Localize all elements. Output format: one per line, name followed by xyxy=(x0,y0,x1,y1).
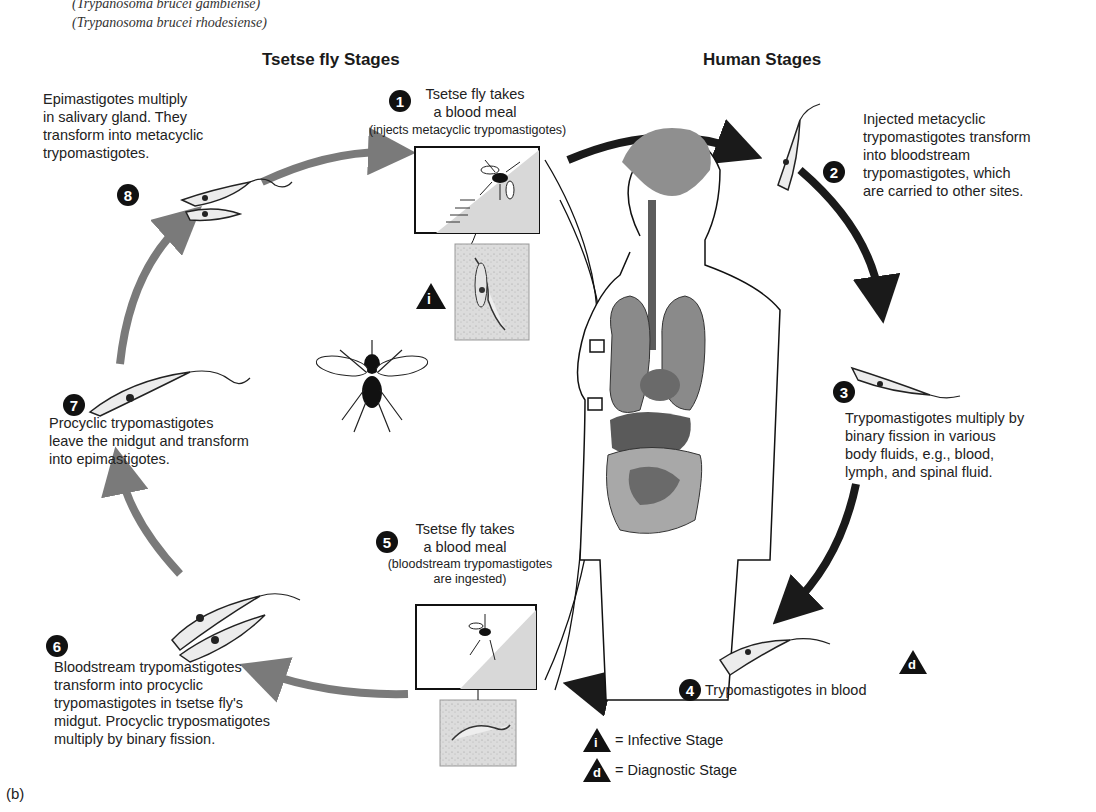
stage-8-description: Epimastigotes multiply in salivary gland… xyxy=(43,90,203,162)
stage5-bite-inset xyxy=(416,605,536,689)
infective-marker-letter: i xyxy=(427,291,431,307)
diagnostic-legend-letter: d xyxy=(593,765,601,780)
stage-6-line: midgut. Procyclic tryposmatigotes xyxy=(54,712,270,730)
stage-4-description: Trypomastigotes in blood xyxy=(705,681,866,699)
epimastigote-8 xyxy=(182,182,250,206)
stage-4-number-badge: 4 xyxy=(679,679,701,701)
legend-infective-row: i = Infective Stage xyxy=(583,728,737,752)
legend: i = Infective Stage d = Diagnostic Stage xyxy=(583,728,737,782)
diagnostic-marker-letter: d xyxy=(908,657,916,672)
stage-6-number-badge: 6 xyxy=(46,635,68,657)
stage-8-number-badge: 8 xyxy=(117,184,139,206)
stage-2-line: are carried to other sites. xyxy=(863,182,1031,200)
stage1-bite-inset xyxy=(415,147,539,233)
stage-2-line: trypomastigotes transform xyxy=(863,128,1031,146)
stage-5-note: (bloodstream trypomastigotes are ingeste… xyxy=(370,557,570,587)
stage-1-title-line: a blood meal xyxy=(415,103,535,121)
stage-5-title-line: a blood meal xyxy=(405,538,525,556)
stage-8-line: in salivary gland. They xyxy=(43,108,203,126)
stage-7-line: leave the midgut and transform xyxy=(49,432,249,450)
stage-6-line: transform into procyclic xyxy=(54,676,270,694)
stage-8-line: trypomastigotes. xyxy=(43,144,203,162)
stage-1-note: (injects metacyclic trypomastigotes) xyxy=(369,123,566,138)
diagnostic-legend-icon: d xyxy=(583,758,611,782)
trypomastigote-2 xyxy=(778,120,800,190)
stage-2-line: trypomastigotes, which xyxy=(863,164,1031,182)
stage-7-description: Procyclic trypomastigotes leave the midg… xyxy=(49,414,249,468)
human-body-figure xyxy=(578,128,781,700)
stage-2-line: Injected metacyclic xyxy=(863,110,1031,128)
diagnostic-legend-label: = Diagnostic Stage xyxy=(615,762,737,778)
infective-legend-icon: i xyxy=(583,728,611,752)
stage-2-description: Injected metacyclic trypomastigotes tran… xyxy=(863,110,1031,200)
figure-label: (b) xyxy=(6,785,24,803)
procyclic-7 xyxy=(90,372,190,416)
stage-3-description: Trypomastigotes multiply by binary fissi… xyxy=(845,409,1024,481)
stage-3-line: Trypomastigotes multiply by xyxy=(845,409,1024,427)
stage-3-number-badge: 3 xyxy=(833,381,855,403)
stage-6-line: Bloodstream trypomastigotes xyxy=(54,658,270,676)
stage-8-line: transform into metacyclic xyxy=(43,126,203,144)
stage-3-line: binary fission in various xyxy=(845,427,1024,445)
infective-stage-marker-icon xyxy=(416,283,446,309)
stage-7-line: into epimastigotes. xyxy=(49,450,249,468)
tsetse-fly-illustration xyxy=(315,340,429,432)
stage-5-title-line: Tsetse fly takes xyxy=(405,520,525,538)
trypomastigote-3 xyxy=(852,368,930,395)
stage-3-line: body fluids, e.g., blood, xyxy=(845,445,1024,463)
stage-5-note-line: are ingested) xyxy=(370,572,570,587)
stage-6-line: multiply by binary fission. xyxy=(54,730,270,748)
stage-3-line: lymph, and spinal fluid. xyxy=(845,463,1024,481)
bloodstream-inset xyxy=(440,700,516,766)
stage-1-title-line: Tsetse fly takes xyxy=(415,85,535,103)
stage-7-number-badge: 7 xyxy=(63,394,85,416)
infective-legend-letter: i xyxy=(594,735,598,750)
stage-2-line: into bloodstream xyxy=(863,146,1031,164)
stage-7-line: Procyclic trypomastigotes xyxy=(49,414,249,432)
legend-diagnostic-row: d = Diagnostic Stage xyxy=(583,758,737,782)
stage-5-note-line: (bloodstream trypomastigotes xyxy=(370,557,570,572)
stage-1-title: Tsetse fly takes a blood meal xyxy=(415,85,535,121)
stage-5-number-badge: 5 xyxy=(376,531,398,553)
stage-8-line: Epimastigotes multiply xyxy=(43,90,203,108)
stage-6-line: trypomastigotes in tsetse fly's xyxy=(54,694,270,712)
stage-6-description: Bloodstream trypomastigotes transform in… xyxy=(54,658,270,748)
stage-1-number-badge: 1 xyxy=(389,90,411,112)
infective-legend-label: = Infective Stage xyxy=(615,732,723,748)
stage-2-number-badge: 2 xyxy=(823,161,845,183)
metacyclic-inset xyxy=(455,244,529,340)
stage-5-title: Tsetse fly takes a blood meal xyxy=(405,520,525,556)
